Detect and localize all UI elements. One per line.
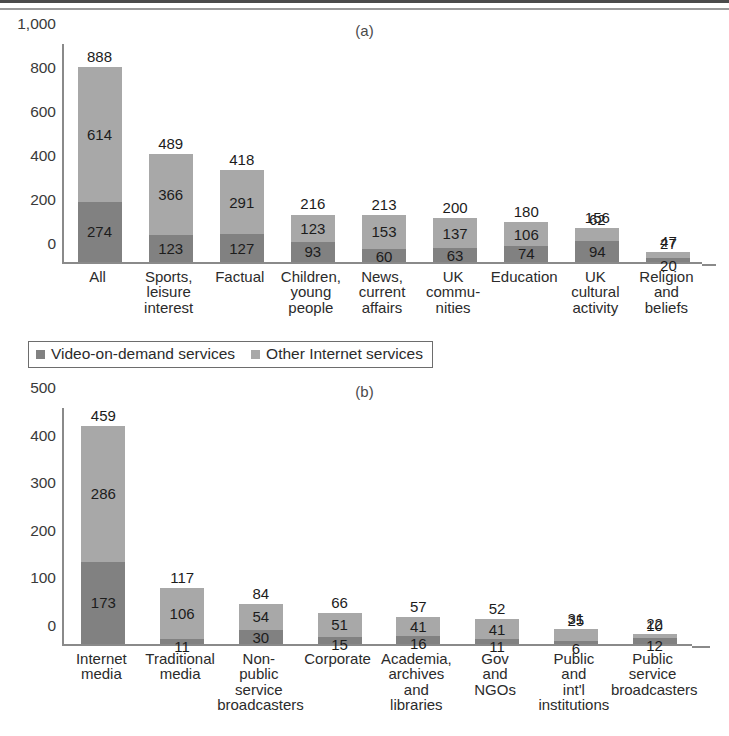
panel-b-segment-video-on-demand: 11	[475, 639, 519, 644]
panel-b-category-label: Non- public service broadcasters	[217, 651, 300, 713]
panel-a-bar: 472720	[646, 252, 690, 262]
panel-a-segment-label-video-on-demand: 123	[158, 241, 183, 256]
panel-a-bar: 18010674	[504, 222, 548, 262]
panel-b-segment-video-on-demand: 30	[239, 630, 283, 644]
panel-b-plot-area: 0100200300400500459286173117106118454306…	[62, 408, 692, 646]
panel-a-ytick: 400	[30, 147, 64, 165]
legend-item-other-internet: Other Internet services	[251, 345, 423, 363]
panel-a-category-label: UK cultural activity	[559, 269, 632, 315]
panel-a-segment-other-internet: 123	[291, 215, 335, 242]
panel-a-segment-label-other-internet: 614	[87, 127, 112, 142]
panel-a-segment-label-video-on-demand: 93	[305, 244, 322, 259]
panel-a-segment-label-other-internet: 366	[158, 187, 183, 202]
legend-label-other-internet: Other Internet services	[266, 345, 423, 363]
panel-a-segment-other-internet: 153	[362, 215, 406, 249]
panel-b-segment-label-other-internet: 10	[646, 618, 663, 633]
panel-a-bar: 489366123	[149, 154, 193, 262]
panel-a-segment-label-video-on-demand: 63	[447, 248, 464, 263]
panel-a-bar-total-label: 180	[514, 203, 539, 220]
panel-a-segment-video-on-demand: 74	[504, 246, 548, 262]
panel-a-segment-video-on-demand: 60	[362, 249, 406, 262]
panel-a-segment-other-internet: 106	[504, 222, 548, 245]
panel-b-ytick: 200	[30, 522, 64, 540]
panel-a-bar: 1566294	[575, 228, 619, 262]
panel-a-segment-video-on-demand: 20	[646, 258, 690, 262]
panel-a-bar-total-label: 216	[300, 195, 325, 212]
panel-b-segment-video-on-demand: 16	[396, 636, 440, 644]
panel-b-bar: 665115	[318, 613, 362, 644]
panel-a-segment-other-internet: 62	[575, 228, 619, 242]
panel-b-segment-video-on-demand: 15	[318, 637, 362, 644]
panel-a-category-label: UK commu- nities	[417, 269, 490, 315]
panel-a-ytick: 1,000	[17, 15, 64, 33]
panel-b-xaxis-overhang	[692, 646, 710, 648]
panel-a-category-label: Children, young people	[275, 269, 348, 315]
panel-a-ytick: 200	[30, 191, 64, 209]
legend-swatch-other-internet	[251, 350, 260, 359]
panel-a-segment-label-other-internet: 291	[229, 195, 254, 210]
panel-b-ytick: 500	[30, 379, 64, 397]
panel-a-segment-other-internet: 614	[78, 67, 122, 202]
panel-b-bar: 31256	[554, 629, 598, 644]
panel-a-plot-area: 02004006008001,0008886142744893661234182…	[62, 44, 702, 264]
panel-b-bar: 221012	[633, 634, 677, 644]
panel-b-segment-label-other-internet: 41	[410, 619, 427, 634]
panel-a-segment-video-on-demand: 93	[291, 242, 335, 262]
panel-b-category-label: Academia, archives and libraries	[375, 651, 458, 713]
panel-b-segment-label-other-internet: 51	[331, 617, 348, 632]
panel-b-segment-label-other-internet: 25	[568, 613, 585, 628]
panel-a-xaxis-overhang	[702, 264, 716, 266]
panel-a-bar: 21315360	[362, 215, 406, 262]
panel-a-bar: 418291127	[220, 170, 264, 262]
panel-a-segment-video-on-demand: 123	[149, 235, 193, 262]
panel-b-bar: 459286173	[81, 426, 125, 644]
panel-b-bar: 574116	[396, 617, 440, 644]
panel-b-bar: 11710611	[160, 588, 204, 644]
panel-a-segment-label-video-on-demand: 74	[518, 246, 535, 261]
panel-b-bar: 524111	[475, 619, 519, 644]
panel-a-segment-label-other-internet: 137	[443, 226, 468, 241]
panel-b-category-label: Gov and NGOs	[453, 651, 536, 697]
panel-b-label: (b)	[0, 383, 729, 400]
panel-a-bar: 20013763	[433, 218, 477, 262]
panel-a-segment-label-video-on-demand: 274	[87, 224, 112, 239]
cropped-title-rule-light	[0, 8, 729, 10]
panel-a-ytick: 600	[30, 103, 64, 121]
panel-a-category-label: Factual	[204, 269, 277, 284]
panel-b-bar: 845430	[239, 604, 283, 644]
panel-a-segment-video-on-demand: 63	[433, 248, 477, 262]
panel-b-segment-other-internet: 54	[239, 604, 283, 630]
panel-a-category-label: Sports, leisure interest	[132, 269, 205, 315]
panel-b-segment-label-other-internet: 54	[253, 609, 270, 624]
panel-b-segment-label-video-on-demand: 173	[91, 595, 116, 610]
panel-a-segment-label-other-internet: 62	[589, 212, 606, 227]
panel-b-segment-label-video-on-demand: 30	[253, 630, 270, 645]
panel-a-segment-label-other-internet: 123	[300, 221, 325, 236]
panel-a-bar-total-label: 200	[443, 199, 468, 216]
panel-a-segment-other-internet: 291	[220, 170, 264, 234]
panel-a-bar: 21612393	[291, 214, 335, 262]
legend: Video-on-demand services Other Internet …	[28, 341, 433, 368]
legend-label-video-on-demand: Video-on-demand services	[51, 345, 235, 363]
panel-a-segment-label-other-internet: 27	[660, 236, 677, 251]
panel-b-category-label: Public service broadcasters	[611, 651, 694, 697]
panel-b-ytick: 300	[30, 474, 64, 492]
panel-b-bar-total-label: 57	[410, 598, 427, 615]
legend-swatch-video-on-demand	[36, 350, 45, 359]
panel-b-segment-other-internet: 51	[318, 613, 362, 637]
panel-a-category-label: All	[61, 269, 134, 284]
panel-b-ytick: 0	[47, 617, 64, 635]
panel-b-segment-video-on-demand: 12	[633, 638, 677, 644]
panel-b-bar-total-label: 459	[91, 407, 116, 424]
panel-b-bar-total-label: 84	[253, 585, 270, 602]
panel-a-segment-label-video-on-demand: 60	[376, 249, 393, 264]
panel-b-segment-video-on-demand: 173	[81, 562, 125, 644]
panel-a-segment-other-internet: 137	[433, 218, 477, 248]
panel-b-category-label: Traditional media	[138, 651, 221, 682]
panel-b-segment-video-on-demand: 6	[554, 641, 598, 644]
panel-a-segment-label-video-on-demand: 94	[589, 244, 606, 259]
panel-a-segment-other-internet: 366	[149, 154, 193, 235]
panel-a-category-label: News, current affairs	[346, 269, 419, 315]
panel-b-category-label: Public and int'l institutions	[532, 651, 615, 713]
panel-a-label: (a)	[0, 22, 729, 39]
